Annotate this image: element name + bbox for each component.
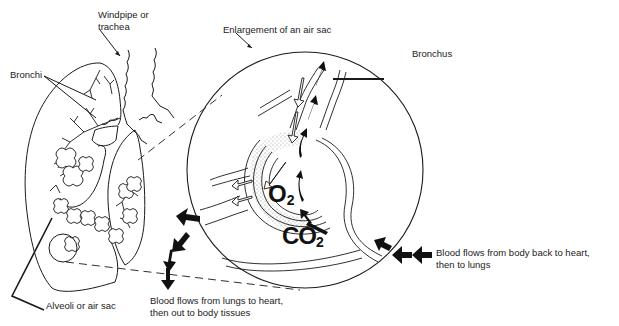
windpipe-label-line2: trachea	[98, 21, 149, 33]
co2-subscript: 2	[316, 234, 323, 250]
alveoli-label: Alveoli or air sac	[46, 300, 116, 312]
oxygen-subscript: 2	[287, 192, 295, 208]
blood-out-line1: Blood flows from lungs to heart,	[150, 295, 283, 307]
blood-in-label: Blood flows from body back to heart, the…	[436, 247, 590, 271]
blood-out-line2: then out to body tissues	[150, 307, 283, 319]
blood-in-line1: Blood flows from body back to heart,	[436, 247, 590, 259]
zoom-dashed-lines	[66, 95, 300, 290]
windpipe-label: Windpipe or trachea	[98, 9, 149, 33]
oxygen-letter: O	[268, 180, 287, 207]
blood-out-label: Blood flows from lungs to heart, then ou…	[150, 295, 283, 319]
bronchi-label: Bronchi	[10, 69, 42, 81]
blood-in-line2: then to lungs	[436, 259, 590, 271]
trachea-walls	[102, 48, 174, 144]
blood-in-arrows	[374, 237, 432, 264]
lung-diagram-illustration	[0, 0, 619, 326]
alveoli-clusters	[54, 148, 142, 252]
bronchus-label: Bronchus	[412, 48, 452, 60]
enlargement-label: Enlargement of an air sac	[223, 24, 331, 36]
windpipe-label-line1: Windpipe or	[98, 9, 149, 21]
co2-symbol: CO2	[282, 222, 323, 250]
co2-letters: CO	[282, 222, 316, 249]
oxygen-symbol: O2	[268, 180, 294, 208]
air-sac-enlargement-circle	[187, 52, 423, 288]
blood-out-arrows	[161, 208, 200, 290]
